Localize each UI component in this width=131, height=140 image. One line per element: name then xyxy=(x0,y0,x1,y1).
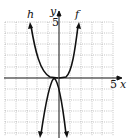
curves xyxy=(31,26,78,134)
y-tick-5: 5 xyxy=(52,16,59,29)
axes xyxy=(4,11,122,138)
g-left-arrow-icon xyxy=(38,131,43,138)
f-arrow-icon xyxy=(76,22,81,29)
label-f: f xyxy=(74,8,81,21)
curve-g-right xyxy=(54,78,66,134)
curve-h xyxy=(31,26,58,78)
arrowheads xyxy=(28,22,81,138)
h-arrow-icon xyxy=(28,22,33,29)
curve-g-left xyxy=(41,78,54,134)
label-x-axis: x xyxy=(120,78,127,91)
g-right-arrow-icon xyxy=(64,131,69,138)
graph: h f y 5 5 x xyxy=(0,0,131,140)
label-h: h xyxy=(27,8,34,21)
curve-f xyxy=(59,26,78,78)
x-tick-5: 5 xyxy=(110,78,117,91)
